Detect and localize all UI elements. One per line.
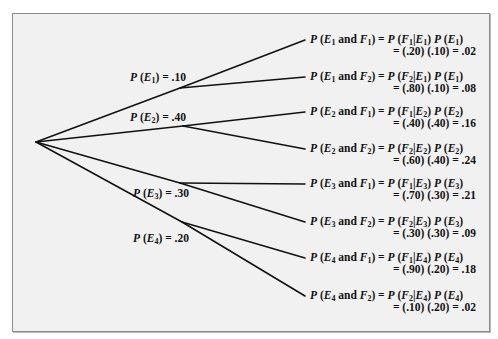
- leaf-line-e4-f2: [182, 222, 305, 296]
- joint-prob-equation-e1-f2: P (E1 and F2) = P (F2|E1) P (E1)= (.80) …: [310, 70, 476, 94]
- joint-prob-equation-e4-f1: P (E4 and F1) = P (F1|E4) P (E4)= (.90) …: [310, 251, 476, 275]
- leaf-line-e1-f1: [180, 40, 305, 88]
- leaf-line-e4-f1: [182, 222, 305, 258]
- leaf-line-e1-f2: [180, 77, 305, 88]
- joint-prob-equation-e3-f1: P (E3 and F1) = P (F1|E3) P (E3)= (.70) …: [310, 177, 476, 201]
- branch-prob-label-e1: P (E1) = .10: [130, 71, 186, 83]
- branch-line-e3: [36, 142, 180, 183]
- leaf-line-e3-f1: [180, 183, 305, 184]
- joint-prob-equation-e4-f2: P (E4 and F2) = P (F2|E4) P (E4)= (.10) …: [310, 289, 476, 313]
- branch-prob-label-e3: P (E3) = .30: [133, 187, 189, 199]
- joint-prob-equation-e3-f2: P (E3 and F2) = P (F2|E3) P (E3)= (.30) …: [310, 215, 476, 239]
- branch-prob-label-e2: P (E2) = .40: [130, 111, 186, 123]
- joint-prob-equation-e1-f1: P (E1 and F1) = P (F1|E1) P (E1)= (.20) …: [310, 33, 476, 57]
- leaf-line-e2-f2: [183, 126, 305, 149]
- branch-prob-label-e4: P (E4) = .20: [133, 232, 189, 244]
- branch-line-e4: [36, 142, 182, 222]
- leaf-line-e2-f1: [183, 112, 305, 126]
- leaf-line-e3-f2: [180, 183, 305, 222]
- joint-prob-equation-e2-f2: P (E2 and F2) = P (F2|E2) P (E2)= (.60) …: [310, 142, 476, 166]
- joint-prob-equation-e2-f1: P (E2 and F1) = P (F1|E2) P (E2)= (.40) …: [310, 105, 476, 129]
